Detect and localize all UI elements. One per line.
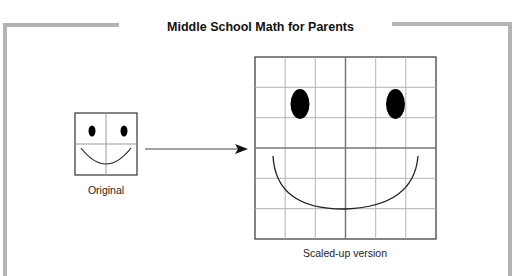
arrow-right-icon [145, 144, 248, 154]
left-eye-icon [89, 126, 96, 137]
scaled-face [255, 57, 436, 239]
original-label: Original [65, 184, 147, 196]
scaling-diagram [0, 0, 521, 276]
right-eye-icon [386, 89, 405, 119]
left-eye-icon [291, 89, 310, 119]
scaled-label: Scaled-up version [280, 247, 410, 259]
original-face [75, 113, 137, 175]
right-eye-icon [121, 126, 128, 137]
